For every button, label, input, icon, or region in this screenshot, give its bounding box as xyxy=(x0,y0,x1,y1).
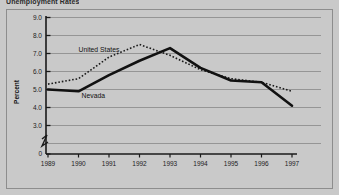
y-tick-label: 7.0 xyxy=(33,50,42,57)
x-tick-label: 1991 xyxy=(102,160,117,167)
plot-frame: 9.08.07.06.05.04.03.00 19891990199119921… xyxy=(6,9,333,189)
gridlines xyxy=(46,18,321,144)
figure-title: Unemployment Rates xyxy=(6,0,79,7)
axis-break-symbol xyxy=(42,135,48,146)
figure-container: Unemployment Rates 9.08.07.06.05.04.03.0… xyxy=(0,0,339,195)
x-tick-label: 1997 xyxy=(285,160,300,167)
series-label-nevada: Nevada xyxy=(82,92,106,99)
y-tick-label: 9.0 xyxy=(33,14,42,21)
series-label-united-states: United States xyxy=(79,46,120,53)
x-axis-tick-labels: 198919901991199219931994199519961997 xyxy=(41,160,300,167)
y-tick-label: 5.0 xyxy=(33,86,42,93)
y-tick-label: 3.0 xyxy=(33,122,42,129)
x-tick-label: 1989 xyxy=(41,160,56,167)
x-tick-label: 1990 xyxy=(71,160,86,167)
x-tick-label: 1995 xyxy=(224,160,239,167)
y-tick-label: 4.0 xyxy=(33,104,42,111)
y-tick-label: 6.0 xyxy=(33,68,42,75)
y-tick-label: 8.0 xyxy=(33,32,42,39)
line-chart: 9.08.07.06.05.04.03.00 19891990199119921… xyxy=(7,10,332,188)
x-tick-label: 1996 xyxy=(254,160,269,167)
y-axis-title: Percent xyxy=(13,79,20,104)
x-tick-label: 1994 xyxy=(193,160,208,167)
x-tick-label: 1992 xyxy=(132,160,147,167)
x-tick-label: 1993 xyxy=(163,160,178,167)
y-axis-tick-labels: 9.08.07.06.05.04.03.00 xyxy=(33,14,51,158)
y-tick-label: 0 xyxy=(38,150,42,157)
